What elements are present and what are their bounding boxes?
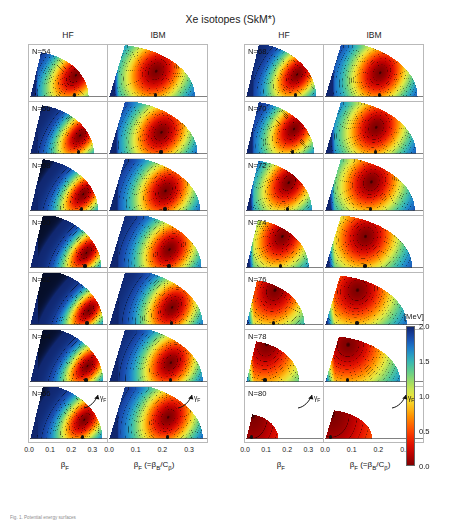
colorbar-gradient: [406, 326, 415, 466]
figure-title: Xe isotopes (SkM*): [0, 13, 461, 25]
x-tick-hf-right-3: 0.3: [303, 446, 313, 453]
x-tick-ibm-left-0: 0.0: [104, 446, 114, 453]
colorbar-tick-1: 1.5: [419, 357, 430, 366]
column-header-1: IBM: [108, 30, 208, 40]
equilibrium-marker-ibm-N74: [363, 264, 366, 267]
equilibrium-marker-hf-N72: [286, 207, 289, 210]
x-tick-ibm-left-2: 0.2: [157, 446, 167, 453]
x-axis-label-hf-left: βF: [61, 460, 69, 471]
figure-root: Xe isotopes (SkM*) HFIBMHFIBM N=54N=56N=…: [0, 0, 461, 522]
equilibrium-marker-ibm-N78: [346, 378, 349, 381]
pes-surface-hf-N62: [29, 273, 108, 329]
pes-surface-ibm-N64: [108, 330, 208, 386]
pes-panel-ibm-N60: [108, 215, 208, 272]
equilibrium-marker-hf-N56: [77, 150, 80, 153]
equilibrium-marker-hf-N64: [84, 378, 87, 381]
pes-surface-hf-N58: [29, 159, 108, 215]
pes-surface-ibm-N58: [108, 159, 208, 215]
pes-surface-hf-N70: [245, 102, 324, 158]
x-tick-ibm-left-1: 0.1: [131, 446, 141, 453]
pes-panel-hf-N72: [244, 158, 324, 215]
equilibrium-marker-hf-N78: [263, 378, 266, 381]
pes-surface-hf-N76: [245, 273, 324, 329]
x-tick-hf-right-2: 0.2: [282, 446, 292, 453]
pes-surface-hf-N66: [29, 387, 108, 443]
colorbar-tick-4: 0.0: [419, 462, 430, 471]
pes-panel-hf-N58: [28, 158, 108, 215]
pes-surface-hf-N72: [245, 159, 324, 215]
pes-panel-ibm-N58: [108, 158, 208, 215]
equilibrium-marker-ibm-N68: [378, 93, 381, 96]
pes-surface-hf-N78: [245, 330, 324, 386]
pes-panel-ibm-N74: [324, 215, 424, 272]
x-tick-ibm-right-1: 0.1: [347, 446, 357, 453]
pes-panel-hf-N60: [28, 215, 108, 272]
pes-panel-ibm-N64: [108, 329, 208, 386]
x-tick-hf-left-1: 0.1: [45, 446, 55, 453]
equilibrium-marker-ibm-N56: [159, 150, 162, 153]
colorbar-tick-3: 0.5: [419, 427, 430, 436]
x-tick-ibm-right-0: 0.0: [320, 446, 330, 453]
x-tick-hf-left-3: 0.3: [87, 446, 97, 453]
equilibrium-marker-hf-N60: [83, 264, 86, 267]
pes-panel-hf-N64: [28, 329, 108, 386]
equilibrium-marker-ibm-N58: [163, 207, 166, 210]
pes-surface-ibm-N68: [324, 45, 424, 101]
pes-surface-ibm-N66: [108, 387, 208, 443]
equilibrium-marker-hf-N76: [272, 321, 275, 324]
pes-surface-hf-N60: [29, 216, 108, 272]
x-tick-hf-left-0: 0.0: [24, 446, 34, 453]
x-tick-hf-right-1: 0.1: [261, 446, 271, 453]
x-tick-hf-right-0: 0.0: [240, 446, 250, 453]
equilibrium-marker-hf-N62: [85, 321, 88, 324]
pes-surface-hf-N64: [29, 330, 108, 386]
pes-panel-hf-N66: [28, 386, 108, 443]
pes-surface-ibm-N62: [108, 273, 208, 329]
pes-panel-ibm-N54: [108, 44, 208, 101]
pes-panel-hf-N74: [244, 215, 324, 272]
pes-surface-ibm-N74: [324, 216, 424, 272]
equilibrium-marker-hf-N68: [294, 93, 297, 96]
equilibrium-marker-ibm-N54: [154, 93, 157, 96]
equilibrium-marker-hf-N80: [250, 435, 253, 438]
pes-panel-hf-N70: [244, 101, 324, 158]
pes-panel-hf-N54: [28, 44, 108, 101]
figure-caption: Fig. 1. Potential energy surfaces: [10, 515, 340, 521]
x-tick-hf-left-2: 0.2: [66, 446, 76, 453]
x-axis-label-ibm-right: βF (=βB/Cβ): [350, 460, 391, 471]
x-axis-hf-right: 0.00.10.20.3βF: [244, 446, 324, 476]
colorbar-tick-2: 1.0: [419, 392, 430, 401]
x-axis-label-hf-right: βF: [277, 460, 285, 471]
pes-panel-ibm-N72: [324, 158, 424, 215]
column-header-0: HF: [28, 30, 108, 40]
pes-panel-ibm-N66: [108, 386, 208, 443]
column-header-2: HF: [244, 30, 324, 40]
equilibrium-marker-hf-N54: [73, 93, 76, 96]
x-axis-label-ibm-left: βF (=βB/Cβ): [134, 460, 175, 471]
colorbar: [MeV] 2.01.51.00.50.0: [404, 312, 461, 472]
pes-panel-hf-N62: [28, 272, 108, 329]
pes-surface-ibm-N60: [108, 216, 208, 272]
column-header-3: IBM: [324, 30, 424, 40]
pes-panel-ibm-N68: [324, 44, 424, 101]
pes-panel-hf-N78: [244, 329, 324, 386]
pes-surface-ibm-N54: [108, 45, 208, 101]
pes-panel-hf-N56: [28, 101, 108, 158]
pes-surface-hf-N54: [29, 45, 108, 101]
pes-panel-ibm-N62: [108, 272, 208, 329]
pes-surface-ibm-N72: [324, 159, 424, 215]
x-axis-hf-left: 0.00.10.20.3βF: [28, 446, 108, 476]
equilibrium-marker-ibm-N60: [167, 264, 170, 267]
x-axis-ibm-left: 0.00.10.20.3βF (=βB/Cβ): [108, 446, 208, 476]
equilibrium-marker-ibm-N62: [170, 321, 173, 324]
equilibrium-marker-ibm-N66: [166, 435, 169, 438]
pes-surface-hf-N68: [245, 45, 324, 101]
equilibrium-marker-hf-N58: [80, 207, 83, 210]
pes-panel-hf-N80: [244, 386, 324, 443]
colorbar-unit-label: [MeV]: [404, 312, 424, 321]
pes-surface-hf-N80: [245, 387, 324, 443]
pes-surface-hf-N56: [29, 102, 108, 158]
equilibrium-marker-ibm-N76: [355, 321, 358, 324]
equilibrium-marker-hf-N70: [291, 150, 294, 153]
pes-panel-ibm-N56: [108, 101, 208, 158]
